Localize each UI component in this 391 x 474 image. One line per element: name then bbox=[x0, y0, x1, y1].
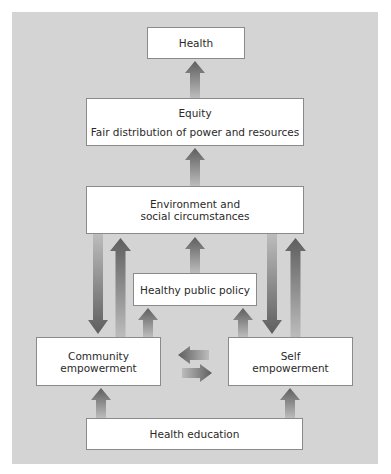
arrow-up-icon bbox=[138, 308, 158, 337]
health-label: Health bbox=[179, 37, 213, 49]
arrow-up-icon bbox=[110, 238, 131, 337]
arrow-right-icon bbox=[182, 364, 212, 382]
arrow-down-icon bbox=[262, 234, 282, 334]
equity-sublabel: Fair distribution of power and resources bbox=[91, 126, 299, 138]
arrow-up-icon bbox=[233, 308, 253, 337]
environment-box: Environment and social circumstances bbox=[86, 186, 304, 234]
arrow-up-icon bbox=[280, 388, 300, 418]
community-empowerment-box: Community empowerment bbox=[36, 337, 161, 386]
self-label-line2: empowerment bbox=[252, 362, 328, 374]
arrow-up-icon bbox=[185, 148, 205, 186]
environment-label-line1: Environment and bbox=[150, 198, 240, 210]
policy-label: Healthy public policy bbox=[140, 284, 250, 296]
arrow-up-icon bbox=[91, 388, 111, 418]
arrow-up-icon bbox=[185, 61, 205, 98]
health-box: Health bbox=[147, 27, 245, 59]
healthy-public-policy-box: Healthy public policy bbox=[133, 273, 257, 306]
self-label-line1: Self bbox=[281, 350, 301, 362]
education-label: Health education bbox=[150, 428, 240, 440]
community-label-line2: empowerment bbox=[60, 362, 136, 374]
equity-box: Equity Fair distribution of power and re… bbox=[86, 98, 304, 146]
arrow-down-icon bbox=[88, 234, 108, 334]
arrow-up-icon bbox=[185, 237, 205, 273]
arrow-up-icon bbox=[285, 238, 306, 337]
arrow-left-icon bbox=[178, 346, 209, 364]
environment-label-line2: social circumstances bbox=[140, 210, 249, 222]
community-label-line1: Community bbox=[68, 350, 129, 362]
equity-label: Equity bbox=[178, 107, 211, 119]
health-education-box: Health education bbox=[86, 418, 303, 450]
self-empowerment-box: Self empowerment bbox=[228, 337, 353, 386]
